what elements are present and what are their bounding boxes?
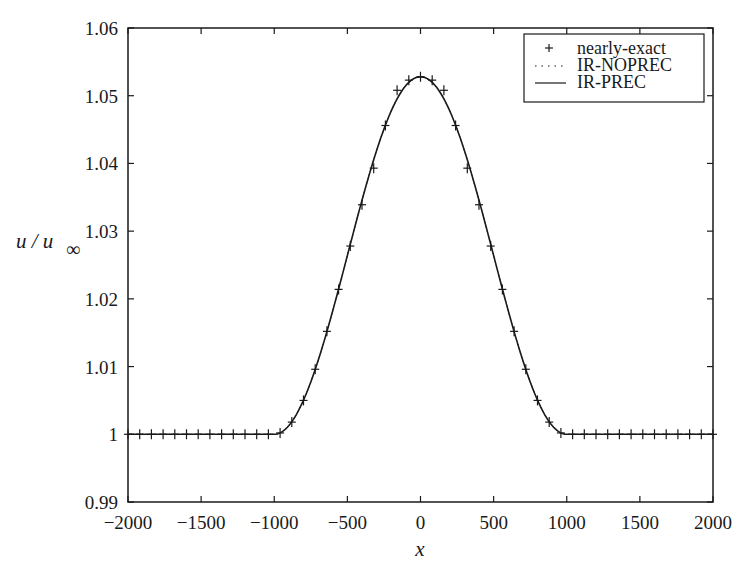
y-tick-label: 1	[109, 424, 119, 445]
plus-marker	[335, 284, 343, 294]
plus-marker	[569, 429, 577, 439]
y-tick-label: 0.99	[85, 492, 118, 513]
y-axis-label-subscript: ∞	[66, 238, 80, 260]
y-tick-label: 1.04	[85, 153, 119, 174]
plus-marker	[651, 429, 659, 439]
plus-marker	[662, 429, 670, 439]
plus-marker	[218, 429, 226, 439]
plus-marker	[686, 429, 694, 439]
plus-marker	[604, 429, 612, 439]
x-tick-label: −1500	[177, 512, 226, 533]
legend-label: IR-PREC	[577, 72, 646, 92]
plus-marker	[171, 429, 179, 439]
plus-marker	[697, 429, 705, 439]
series-nearly-exact	[124, 72, 717, 440]
plus-marker	[557, 428, 565, 438]
plus-marker	[510, 326, 518, 336]
plus-marker	[194, 429, 202, 439]
plus-marker	[580, 429, 588, 439]
plus-marker	[709, 429, 717, 439]
y-tick-label: 1.05	[85, 86, 118, 107]
plus-marker	[136, 429, 144, 439]
series-ir-prec	[128, 77, 713, 435]
y-tick-label: 1.03	[85, 221, 118, 242]
plus-marker	[428, 75, 436, 85]
y-tick-label: 1.01	[85, 357, 118, 378]
plus-marker	[674, 429, 682, 439]
plus-marker	[405, 75, 413, 85]
plus-marker	[159, 429, 167, 439]
plus-marker	[381, 121, 389, 131]
plus-marker	[311, 364, 319, 374]
series-ir-noprec	[128, 77, 713, 435]
plus-marker	[253, 429, 261, 439]
plus-marker	[229, 429, 237, 439]
plus-marker	[323, 326, 331, 336]
plus-marker	[498, 284, 506, 294]
plus-marker	[615, 429, 623, 439]
x-tick-label: 1500	[621, 512, 659, 533]
plus-marker	[183, 429, 191, 439]
x-tick-label: −1000	[250, 512, 299, 533]
y-axis-label-main: u / u	[16, 229, 53, 253]
chart: −2000−1500−1000−5000500100015002000 0.99…	[0, 0, 752, 572]
x-tick-label: 0	[416, 512, 426, 533]
plus-marker	[241, 429, 249, 439]
plus-marker	[147, 429, 155, 439]
x-tick-label: −2000	[104, 512, 153, 533]
plus-marker	[534, 395, 542, 405]
y-tick-label: 1.06	[85, 18, 118, 39]
plus-marker	[300, 395, 308, 405]
plus-marker	[592, 429, 600, 439]
plus-marker	[627, 429, 635, 439]
plus-marker	[639, 429, 647, 439]
x-tick-label: −500	[328, 512, 367, 533]
plus-marker	[522, 364, 530, 374]
plus-marker	[417, 72, 425, 82]
x-tick-label: 1000	[548, 512, 586, 533]
plus-marker	[452, 121, 460, 131]
x-axis: −2000−1500−1000−5000500100015002000	[104, 28, 732, 533]
x-tick-label: 500	[479, 512, 508, 533]
plus-marker	[264, 429, 272, 439]
plus-marker	[346, 241, 354, 251]
legend: nearly-exact IR-NOPREC IR-PREC	[524, 34, 704, 102]
plus-marker	[487, 241, 495, 251]
data-series	[124, 72, 717, 440]
plus-marker	[206, 429, 214, 439]
x-tick-label: 2000	[694, 512, 732, 533]
y-tick-label: 1.02	[85, 289, 118, 310]
plus-marker	[276, 428, 284, 438]
y-axis-label: u / u ∞	[16, 229, 80, 260]
plus-marker	[124, 429, 132, 439]
x-axis-label: x	[414, 537, 425, 561]
